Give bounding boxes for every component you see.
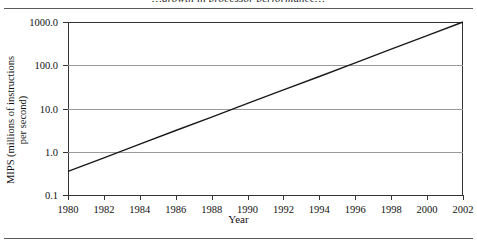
x-tick-mark — [248, 195, 249, 200]
y-tick-label: 100.0 — [34, 60, 58, 71]
figure-top-rule — [4, 8, 473, 9]
y-tick-label: 1000.0 — [29, 17, 58, 28]
series-line-processor-performance — [68, 22, 463, 171]
series-layer — [68, 22, 463, 195]
figure-container: …growth in processor performance… MIPS (… — [0, 0, 477, 245]
x-tick-mark — [463, 195, 464, 200]
x-tick-mark — [355, 195, 356, 200]
x-tick-mark — [140, 195, 141, 200]
x-tick-mark — [391, 195, 392, 200]
x-tick-mark — [176, 195, 177, 200]
x-tick-mark — [212, 195, 213, 200]
x-tick-mark — [283, 195, 284, 200]
figure-bottom-rule — [4, 238, 473, 239]
y-tick-label: 10.0 — [40, 103, 58, 114]
x-tick-mark — [427, 195, 428, 200]
x-tick-mark — [104, 195, 105, 200]
x-tick-mark — [68, 195, 69, 200]
x-axis-title: Year — [0, 213, 477, 225]
y-tick-label: 1.0 — [45, 146, 58, 157]
x-tick-mark — [319, 195, 320, 200]
plot-area — [68, 22, 463, 195]
clipped-caption-text: …growth in processor performance… — [0, 0, 477, 2]
